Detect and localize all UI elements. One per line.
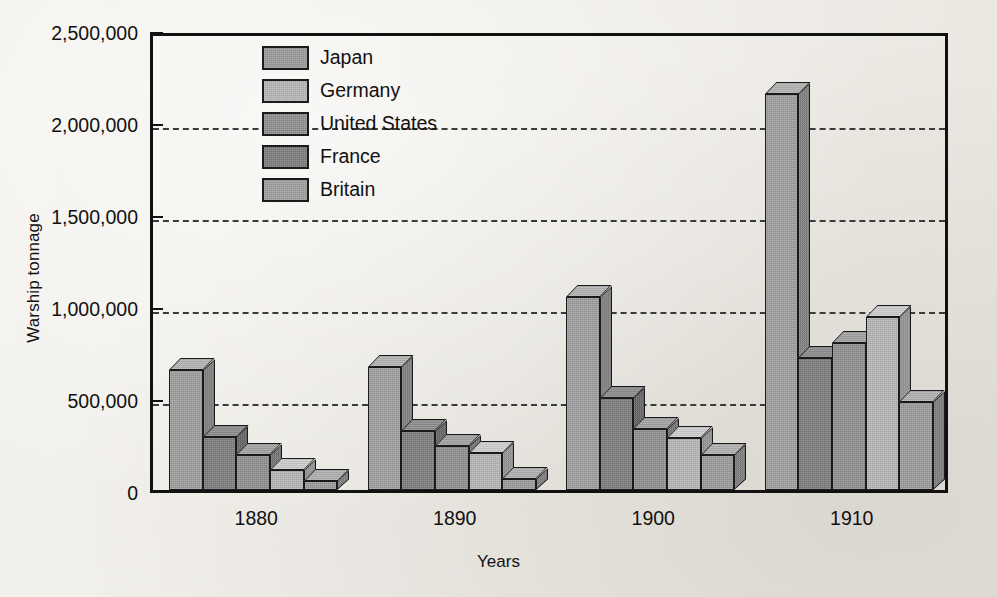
y-tick-label: 500,000 — [0, 390, 138, 413]
bar-germany-1880 — [270, 470, 304, 490]
legend-item-france: France — [262, 142, 437, 172]
chart-figure: Warship tonnage Years 0500,0001,000,0001… — [0, 0, 997, 597]
bar-front-face — [502, 479, 536, 490]
bar-united-states-1900 — [633, 429, 667, 490]
bar-united-states-1910 — [832, 343, 866, 490]
bar-front-face — [236, 455, 270, 490]
bar-japan-1890 — [502, 479, 536, 490]
bar-front-face — [798, 358, 832, 490]
bar-front-face — [899, 402, 933, 490]
bar-front-face — [765, 94, 799, 490]
bar-britain-1890 — [368, 367, 402, 490]
chart-legend: JapanGermanyUnited StatesFranceBritain — [262, 43, 437, 205]
y-axis-title: Warship tonnage — [24, 148, 44, 408]
bar-france-1890 — [401, 431, 435, 490]
legend-item-britain: Britain — [262, 175, 437, 205]
legend-label: Britain — [320, 180, 375, 200]
bar-front-face — [270, 470, 304, 490]
legend-label: France — [320, 147, 381, 167]
bar-united-states-1880 — [236, 455, 270, 490]
bar-japan-1900 — [701, 455, 735, 490]
legend-label: Germany — [320, 81, 400, 101]
bar-front-face — [368, 367, 402, 490]
bar-japan-1880 — [304, 481, 338, 490]
legend-swatch-icon — [262, 178, 309, 202]
bar-front-face — [667, 438, 701, 490]
bar-front-face — [832, 343, 866, 490]
bar-front-face — [566, 297, 600, 490]
bar-front-face — [701, 455, 735, 490]
legend-swatch-icon — [262, 145, 309, 169]
legend-swatch-icon — [262, 79, 309, 103]
y-tick-label: 1,000,000 — [0, 298, 138, 321]
bar-britain-1880 — [169, 370, 203, 490]
legend-label: United States — [320, 114, 437, 134]
y-tick-label: 0 — [0, 482, 138, 505]
bar-front-face — [600, 398, 634, 490]
bar-britain-1900 — [566, 297, 600, 490]
bar-side-face — [933, 391, 945, 490]
bar-front-face — [304, 481, 338, 490]
gridline — [153, 312, 945, 314]
bar-front-face — [435, 446, 469, 490]
x-tick-label: 1900 — [632, 507, 675, 530]
bar-japan-1910 — [899, 402, 933, 490]
bar-front-face — [203, 437, 237, 490]
bar-britain-1910 — [765, 94, 799, 490]
bar-germany-1890 — [469, 453, 503, 490]
bar-front-face — [469, 453, 503, 490]
bar-united-states-1890 — [435, 446, 469, 490]
legend-item-japan: Japan — [262, 43, 437, 73]
legend-item-germany: Germany — [262, 76, 437, 106]
bar-front-face — [401, 431, 435, 490]
legend-label: Japan — [320, 48, 373, 68]
y-tick-label: 2,000,000 — [0, 114, 138, 137]
x-tick-label: 1880 — [235, 507, 278, 530]
x-tick-label: 1910 — [830, 507, 873, 530]
x-axis-title: Years — [0, 552, 997, 572]
bar-germany-1900 — [667, 438, 701, 490]
bar-france-1900 — [600, 398, 634, 490]
bar-front-face — [866, 317, 900, 490]
y-tick-label: 2,500,000 — [0, 22, 138, 45]
y-tick-label: 1,500,000 — [0, 206, 138, 229]
legend-item-united-states: United States — [262, 109, 437, 139]
x-tick-label: 1890 — [433, 507, 476, 530]
legend-swatch-icon — [262, 112, 309, 136]
bar-france-1910 — [798, 358, 832, 490]
bar-france-1880 — [203, 437, 237, 490]
gridline — [153, 220, 945, 222]
legend-swatch-icon — [262, 46, 309, 70]
bar-germany-1910 — [866, 317, 900, 490]
bar-front-face — [633, 429, 667, 490]
bar-front-face — [169, 370, 203, 490]
